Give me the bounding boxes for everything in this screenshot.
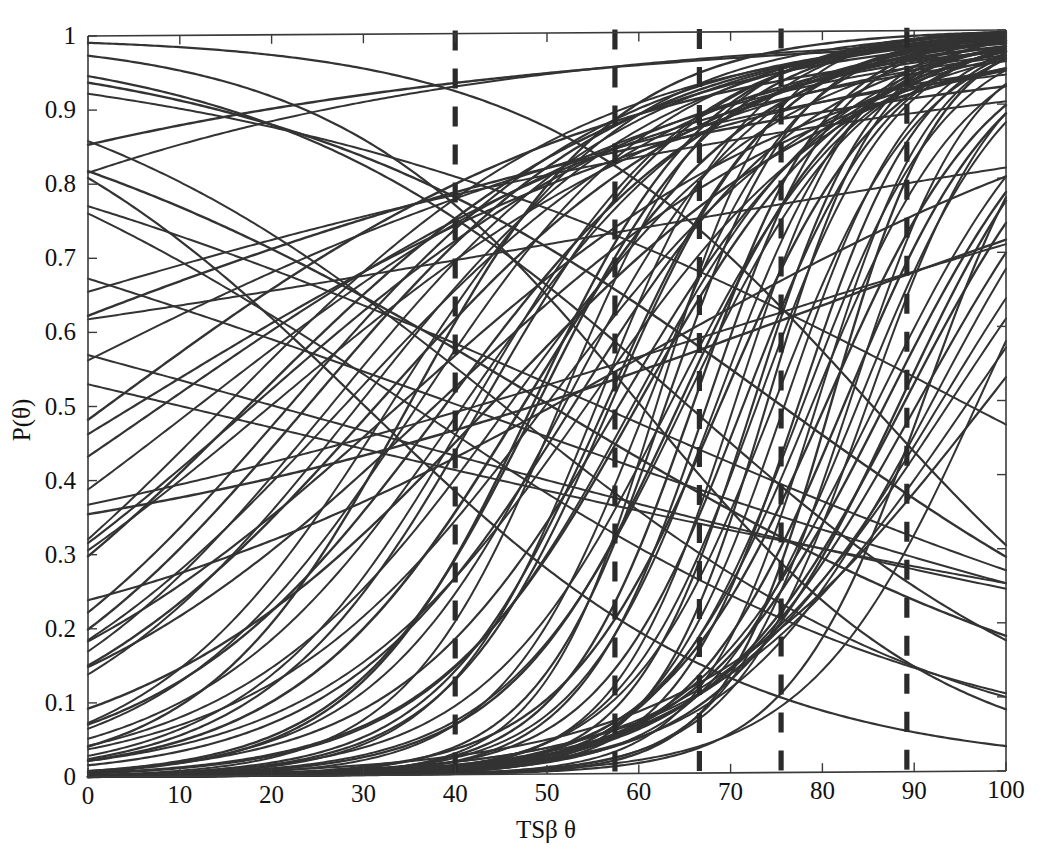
x-tick-label: 60 [626, 778, 651, 805]
y-tick-label: 0.1 [45, 689, 76, 716]
y-tick-label: 0.3 [45, 541, 76, 568]
y-tick-label: 0.5 [45, 393, 76, 420]
x-tick-label: 100 [987, 776, 1025, 803]
y-tick-label: 0.8 [45, 170, 76, 197]
y-tick-label: 0 [64, 763, 77, 790]
x-tick-label: 80 [810, 777, 835, 804]
icc-plot-svg: 0102030405060708090100 00.10.20.30.40.50… [0, 0, 1044, 859]
x-tick-label: 20 [259, 781, 284, 808]
x-tick-label: 90 [902, 777, 927, 804]
y-tick-label: 0.9 [45, 96, 76, 123]
x-axis-title: TSβ θ [516, 816, 576, 843]
y-tick-label: 1 [64, 22, 77, 49]
x-tick-label: 10 [167, 781, 192, 808]
y-tick-label: 0.6 [45, 318, 76, 345]
y-axis-title: P(θ) [8, 399, 36, 442]
y-tick-label: 0.2 [45, 615, 76, 642]
y-tick-label: 0.7 [45, 244, 76, 271]
x-tick-label: 70 [718, 778, 743, 805]
chart-figure: 0102030405060708090100 00.10.20.30.40.50… [0, 0, 1044, 859]
x-tick-label: 40 [443, 780, 468, 807]
x-tick-label: 0 [82, 782, 95, 809]
x-tick-label: 30 [351, 780, 376, 807]
y-tick-label: 0.4 [45, 467, 77, 494]
x-tick-label: 50 [535, 779, 560, 806]
